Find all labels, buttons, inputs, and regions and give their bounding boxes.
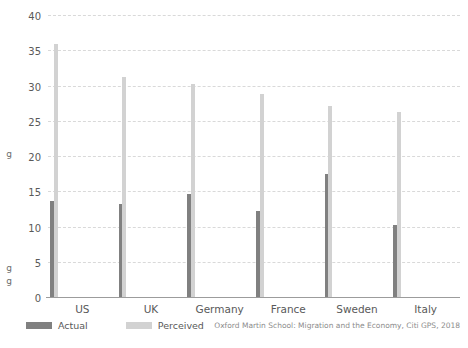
plot-inner: 0510152025303540 USUKGermanyFranceSweden… <box>48 16 460 298</box>
y-axis-tick-label: 30 <box>28 81 41 92</box>
bar-perceived <box>260 94 264 298</box>
x-axis-category-label: Sweden <box>323 303 392 315</box>
bar-group: US <box>48 16 117 298</box>
y-axis-tick-label: 15 <box>28 187 41 198</box>
y-axis-tick-label: 10 <box>28 222 41 233</box>
x-axis-category-label: UK <box>117 303 186 315</box>
bar-group: France <box>254 16 323 298</box>
legend-swatch-icon <box>126 322 152 329</box>
bar-perceived <box>122 77 126 298</box>
legend-item-perceived[interactable]: Perceived <box>126 320 204 331</box>
y-axis-tick-label: 20 <box>28 152 41 163</box>
x-axis-category-label: Germany <box>185 303 254 315</box>
source-attribution: Oxford Martin School: Migration and the … <box>214 321 460 330</box>
y-axis-tick-label: 40 <box>28 11 41 22</box>
bar-group: Sweden <box>323 16 392 298</box>
chart-plot-area: 0510152025303540 USUKGermanyFranceSweden… <box>48 16 460 298</box>
x-axis-category-label: France <box>254 303 323 315</box>
bar-perceived <box>397 112 401 298</box>
chart-legend: ActualPerceived <box>26 320 204 331</box>
legend-label: Actual <box>58 320 88 331</box>
bar-perceived <box>328 106 332 298</box>
clipped-left-margin-text-lower: g g <box>0 262 12 288</box>
x-axis-category-label: Italy <box>391 303 460 315</box>
bar-group: UK <box>117 16 186 298</box>
bar-perceived <box>191 84 195 298</box>
y-axis-tick-label: 25 <box>28 116 41 127</box>
x-axis-line <box>46 297 460 298</box>
y-axis-tick-label: 5 <box>35 257 41 268</box>
legend-swatch-icon <box>26 322 52 329</box>
bar-perceived <box>54 44 58 298</box>
x-axis-category-label: US <box>48 303 117 315</box>
bar-group: Italy <box>391 16 460 298</box>
legend-label: Perceived <box>158 320 204 331</box>
clipped-left-margin-text: g <box>0 148 12 161</box>
y-axis-tick-label: 35 <box>28 46 41 57</box>
legend-item-actual[interactable]: Actual <box>26 320 88 331</box>
y-axis-tick-label: 0 <box>35 293 41 304</box>
bar-group: Germany <box>185 16 254 298</box>
